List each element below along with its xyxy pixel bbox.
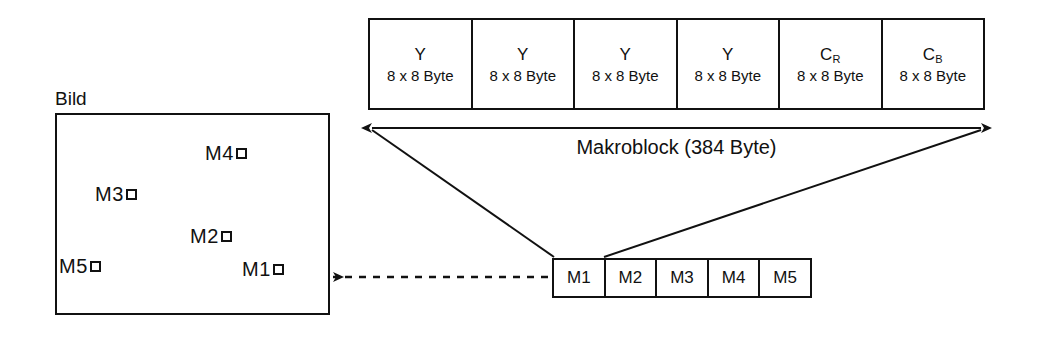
macroblock-component-label: Y: [619, 46, 631, 64]
picture-macroblock-m1: M1: [242, 258, 284, 281]
macroblock-size-label: 8 x 8 Byte: [797, 67, 864, 86]
macroblock-square-icon: [126, 189, 137, 200]
sequence-cell-m1: M1: [554, 260, 606, 296]
macroblock-component-label: Y: [722, 46, 734, 64]
picture-label: Bild: [55, 88, 87, 110]
macroblock-cell: Y 8 x 8 Byte: [370, 20, 473, 108]
picture-macroblock-m4: M4: [205, 142, 247, 165]
macroblock-table: Y 8 x 8 Byte Y 8 x 8 Byte Y 8 x 8 Byte Y…: [368, 18, 985, 110]
macroblock-size-label: 8 x 8 Byte: [592, 67, 659, 86]
picture-macroblock-m2: M2: [190, 225, 232, 248]
macroblock-component-label: CR: [820, 46, 841, 64]
macroblock-cell: Y 8 x 8 Byte: [678, 20, 781, 108]
macroblock-size-label: 8 x 8 Byte: [694, 67, 761, 86]
sequence-cell-m2: M2: [606, 260, 658, 296]
macroblock-square-icon: [273, 264, 284, 275]
macroblock-square-icon: [236, 148, 247, 159]
picture-macroblock-m3: M3: [95, 183, 137, 206]
sequence-cell-m4: M4: [709, 260, 761, 296]
macroblock-component-label: Y: [414, 46, 426, 64]
macroblock-cell: CB 8 x 8 Byte: [883, 20, 984, 108]
macroblock-square-icon: [221, 231, 232, 242]
macroblock-span-label: Makroblock (384 Byte): [368, 136, 985, 159]
macroblock-size-label: 8 x 8 Byte: [489, 67, 556, 86]
picture-macroblock-m5: M5: [59, 255, 101, 278]
macroblock-cell: Y 8 x 8 Byte: [575, 20, 678, 108]
macroblock-component-subscript: B: [935, 53, 943, 65]
macroblock-square-icon: [90, 261, 101, 272]
picture-frame: M4 M3 M2 M5 M1: [55, 113, 330, 315]
sequence-strip: M1 M2 M3 M4 M5: [552, 258, 812, 298]
macroblock-cell: Y 8 x 8 Byte: [473, 20, 576, 108]
sequence-cell-m3: M3: [657, 260, 709, 296]
macroblock-component-subscript: R: [832, 53, 840, 65]
macroblock-size-label: 8 x 8 Byte: [387, 67, 454, 86]
sequence-cell-m5: M5: [760, 260, 810, 296]
macroblock-cell: CR 8 x 8 Byte: [780, 20, 883, 108]
macroblock-component-label: CB: [923, 46, 943, 64]
macroblock-size-label: 8 x 8 Byte: [899, 67, 966, 86]
macroblock-component-label: Y: [517, 46, 529, 64]
